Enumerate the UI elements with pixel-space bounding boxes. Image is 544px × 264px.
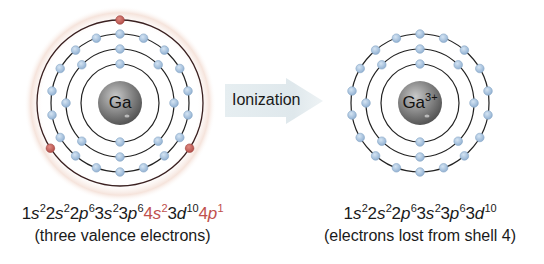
right-nucleus-symbol: Ga bbox=[402, 93, 425, 112]
arrow-label: Ionization bbox=[232, 91, 301, 109]
left-electron-shell-3 bbox=[139, 164, 148, 173]
left-electron-shell-3 bbox=[116, 168, 125, 177]
shell-number: 2 bbox=[392, 204, 401, 223]
left-nucleus-highlight bbox=[125, 115, 130, 118]
left-electron-shell-2 bbox=[154, 61, 163, 70]
right-electron-shell-3 bbox=[484, 87, 493, 96]
left-orbital-term: 3d10 bbox=[168, 204, 199, 223]
electron-count: 6 bbox=[411, 202, 417, 214]
left-electron-shell-3 bbox=[48, 111, 57, 120]
right-electron-shell-3 bbox=[371, 46, 380, 55]
left-electron-shell-3 bbox=[92, 164, 101, 173]
left-configuration-block: 1s22s22p63s23p64s23d104p1 (three valence… bbox=[0, 204, 245, 245]
right-electron-shell-2 bbox=[378, 61, 387, 70]
shell-number: 4 bbox=[144, 204, 153, 223]
right-orbital-term: 2s2 bbox=[368, 204, 392, 223]
right-electron-configuration: 1s22s22p63s23p63d10 bbox=[300, 204, 540, 225]
right-orbital-term: 1s2 bbox=[344, 204, 368, 223]
left-nucleus-symbol: Ga bbox=[109, 93, 132, 112]
left-electron-shell-2 bbox=[116, 153, 125, 162]
right-electron-shell-3 bbox=[356, 64, 365, 73]
subshell-letter: s bbox=[377, 204, 385, 223]
right-electron-shell-1 bbox=[416, 138, 425, 147]
right-electron-shell-2 bbox=[454, 61, 463, 70]
right-electron-shell-3 bbox=[356, 133, 365, 142]
right-electron-shell-2 bbox=[362, 99, 371, 108]
left-electron-shell-3 bbox=[176, 64, 185, 73]
shell-number: 4 bbox=[198, 204, 207, 223]
left-electron-shell-2 bbox=[78, 137, 87, 146]
subshell-letter: p bbox=[208, 204, 217, 223]
electron-count: 2 bbox=[386, 202, 392, 214]
electron-count: 2 bbox=[40, 202, 46, 214]
subshell-letter: s bbox=[426, 204, 434, 223]
right-electron-shell-3 bbox=[371, 152, 380, 161]
electron-count: 2 bbox=[362, 202, 368, 214]
subshell-letter: s bbox=[153, 204, 161, 223]
left-orbital-term: 3p6 bbox=[119, 204, 144, 223]
right-nucleus-label: Ga3+ bbox=[394, 93, 446, 113]
subshell-letter: s bbox=[104, 204, 112, 223]
left-electron-shell-3 bbox=[160, 152, 169, 161]
left-orbital-term: 1s2 bbox=[22, 204, 46, 223]
electron-count: 2 bbox=[435, 202, 441, 214]
electron-count: 10 bbox=[187, 202, 199, 214]
left-orbital-term: 4p1 bbox=[198, 204, 223, 223]
left-electron-shell-3 bbox=[116, 30, 125, 39]
subshell-letter: s bbox=[31, 204, 39, 223]
left-nucleus-label: Ga bbox=[98, 93, 142, 113]
electron-count: 2 bbox=[64, 202, 70, 214]
left-orbital-term: 4s2 bbox=[144, 204, 168, 223]
subshell-letter: d bbox=[475, 204, 484, 223]
subshell-letter: p bbox=[128, 204, 137, 223]
right-orbital-term: 2p6 bbox=[392, 204, 417, 223]
left-electron-shell-3 bbox=[56, 64, 65, 73]
right-electron-shell-3 bbox=[439, 164, 448, 173]
right-electron-shell-2 bbox=[454, 137, 463, 146]
right-electron-shell-3 bbox=[460, 46, 469, 55]
left-orbital-term: 3s2 bbox=[95, 204, 119, 223]
right-electron-shell-3 bbox=[476, 64, 485, 73]
right-electron-shell-3 bbox=[416, 30, 425, 39]
left-electron-shell-3 bbox=[176, 133, 185, 142]
shell-number: 3 bbox=[466, 204, 475, 223]
left-electron-shell-2 bbox=[170, 99, 179, 108]
right-nucleus-highlight bbox=[425, 115, 430, 118]
left-electron-shell-1 bbox=[116, 138, 125, 147]
right-electron-shell-2 bbox=[470, 99, 479, 108]
right-electron-shell-3 bbox=[439, 34, 448, 43]
right-electron-shell-2 bbox=[416, 153, 425, 162]
right-electron-shell-3 bbox=[392, 34, 401, 43]
right-electron-shell-3 bbox=[348, 111, 357, 120]
left-caption: (three valence electrons) bbox=[0, 226, 245, 245]
electron-count: 6 bbox=[89, 202, 95, 214]
right-orbital-term: 3d10 bbox=[466, 204, 497, 223]
left-electron-shell-3 bbox=[184, 87, 193, 96]
shell-number: 2 bbox=[46, 204, 55, 223]
left-electron-shell-2 bbox=[154, 137, 163, 146]
right-caption: (electrons lost from shell 4) bbox=[300, 226, 540, 245]
electron-count: 2 bbox=[162, 202, 168, 214]
subshell-letter: s bbox=[353, 204, 361, 223]
shell-number: 3 bbox=[168, 204, 177, 223]
right-electron-shell-1 bbox=[416, 60, 425, 69]
left-electron-shell-2 bbox=[62, 99, 71, 108]
subshell-letter: d bbox=[177, 204, 186, 223]
right-electron-shell-3 bbox=[484, 111, 493, 120]
shell-number: 2 bbox=[70, 204, 79, 223]
left-valence-electron bbox=[185, 144, 194, 153]
left-electron-shell-2 bbox=[116, 45, 125, 54]
right-configuration-block: 1s22s22p63s23p63d10 (electrons lost from… bbox=[300, 204, 540, 245]
shell-number: 3 bbox=[119, 204, 128, 223]
left-electron-shell-3 bbox=[56, 133, 65, 142]
left-electron-shell-3 bbox=[139, 34, 148, 43]
left-electron-shell-3 bbox=[71, 46, 80, 55]
electron-count: 2 bbox=[113, 202, 119, 214]
electron-count: 1 bbox=[217, 202, 223, 214]
electron-count: 6 bbox=[460, 202, 466, 214]
right-nucleus-charge: 3+ bbox=[425, 91, 438, 103]
right-electron-shell-2 bbox=[378, 137, 387, 146]
left-electron-shell-3 bbox=[71, 152, 80, 161]
shell-number: 3 bbox=[441, 204, 450, 223]
right-electron-shell-3 bbox=[348, 87, 357, 96]
